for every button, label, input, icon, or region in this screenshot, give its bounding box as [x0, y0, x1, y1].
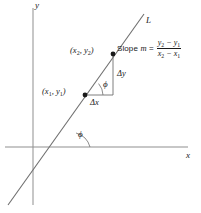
line-label-L: L: [146, 16, 151, 25]
den-x2-sub: 2: [161, 53, 164, 59]
slope-equals-sign: =: [149, 44, 154, 53]
slope-symbol-m: m: [140, 43, 146, 53]
figure-canvas: y x L (x2, y2) (x1, y1) Δy Δx ϕ ϕ Slope …: [0, 0, 201, 213]
slope-numerator: y2 − y1: [157, 38, 181, 47]
point-2-label: (x2, y2): [70, 46, 94, 55]
den-minus: −: [164, 49, 173, 58]
num-y2-sub: 2: [161, 42, 164, 48]
p2-y-sub: 2: [88, 50, 91, 56]
slope-diagram-svg: [0, 0, 201, 213]
delta-x-label: Δx: [90, 98, 99, 107]
p1-close-paren: ): [63, 86, 66, 96]
phi-label-triangle: ϕ: [103, 80, 108, 89]
slope-formula: Slope m = y2 − y1 x2 − x1: [117, 38, 181, 58]
slope-lead-text: Slope: [117, 44, 138, 53]
p1-y-sub: 1: [60, 91, 63, 97]
p1-x-sub: 1: [49, 91, 52, 97]
p2-x-sub: 2: [77, 50, 80, 56]
y-axis-label: y: [35, 1, 39, 10]
num-y1-sub: 1: [177, 42, 180, 48]
point-1-label: (x1, y1): [42, 87, 66, 96]
x-axis-label: x: [186, 151, 190, 160]
point-2-marker: [111, 52, 116, 57]
p2-close-paren: ): [91, 45, 94, 55]
num-minus: −: [164, 38, 173, 47]
den-x1-sub: 1: [177, 53, 180, 59]
slope-denominator: x2 − x1: [157, 49, 181, 58]
point-1-marker: [83, 93, 88, 98]
phi-label-axis: ϕ: [78, 130, 83, 139]
delta-y-label: Δy: [117, 69, 126, 78]
slope-fraction: y2 − y1 x2 − x1: [157, 38, 181, 58]
